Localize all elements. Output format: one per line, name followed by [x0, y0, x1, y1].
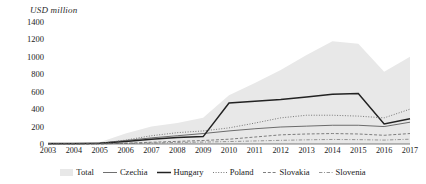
legend-line-icon	[213, 169, 227, 176]
legend-label: Poland	[230, 167, 254, 177]
x-axis-tick-2008: 2008	[169, 146, 185, 155]
y-axis-title: USD million	[30, 5, 77, 15]
y-axis-tick-800: 800	[31, 69, 44, 79]
legend-item-poland[interactable]: Poland	[213, 167, 254, 177]
legend-item-czechia[interactable]: Czechia	[103, 167, 148, 177]
x-axis-tick-2016: 2016	[376, 146, 392, 155]
legend-label: Hungary	[174, 167, 204, 177]
x-axis-tick-2010: 2010	[221, 146, 237, 155]
x-axis-tick-labels: 2003200420052006200720082009201020112012…	[48, 146, 410, 159]
chart-container: USD million 0200400600800100012001400 20…	[0, 0, 426, 184]
x-axis-tick-2017: 2017	[402, 146, 418, 155]
x-axis-tick-2006: 2006	[117, 146, 133, 155]
legend-label: Czechia	[120, 167, 148, 177]
y-axis-tick-1200: 1200	[27, 34, 44, 44]
chart-legend: TotalCzechiaHungaryPolandSlovakiaSloveni…	[0, 164, 426, 180]
x-axis-tick-2007: 2007	[143, 146, 159, 155]
x-axis-tick-2005: 2005	[92, 146, 108, 155]
x-axis-tick-2014: 2014	[324, 146, 340, 155]
x-axis-tick-2004: 2004	[66, 146, 82, 155]
x-axis-tick-2012: 2012	[273, 146, 289, 155]
y-axis-tick-200: 200	[31, 122, 44, 132]
x-axis-tick-2013: 2013	[298, 146, 314, 155]
legend-label: Slovenia	[336, 167, 366, 177]
legend-item-slovenia[interactable]: Slovenia	[319, 167, 366, 177]
legend-line-icon	[103, 169, 117, 176]
y-axis-tick-1400: 1400	[27, 17, 44, 27]
y-axis-tick-1000: 1000	[27, 52, 44, 62]
chart-plot-svg	[48, 22, 410, 144]
legend-label: Slovakia	[280, 167, 310, 177]
y-axis-tick-600: 600	[31, 87, 44, 97]
legend-line-icon	[157, 169, 171, 176]
plot-area	[48, 22, 410, 144]
x-axis-tick-2009: 2009	[195, 146, 211, 155]
legend-item-hungary[interactable]: Hungary	[157, 167, 204, 177]
legend-line-icon	[263, 169, 277, 176]
x-axis-tick-2011: 2011	[247, 146, 263, 155]
x-axis-tick-2003: 2003	[40, 146, 56, 155]
y-axis-tick-400: 400	[31, 104, 44, 114]
legend-line-icon	[319, 169, 333, 176]
legend-item-total[interactable]: Total	[60, 167, 94, 177]
legend-swatch-icon	[60, 169, 73, 176]
series-area-total	[48, 41, 410, 144]
x-axis-tick-2015: 2015	[350, 146, 366, 155]
legend-item-slovakia[interactable]: Slovakia	[263, 167, 310, 177]
legend-label: Total	[76, 167, 94, 177]
y-axis-tick-labels: 0200400600800100012001400	[0, 22, 44, 144]
